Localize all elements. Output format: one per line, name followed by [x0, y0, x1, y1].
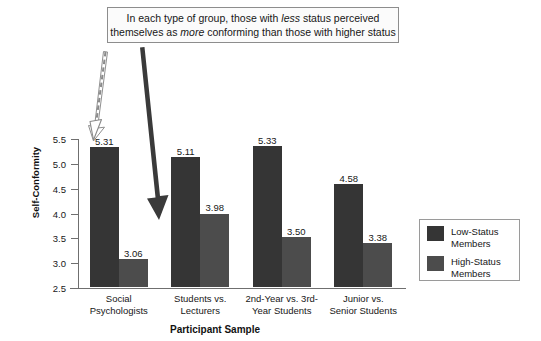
bar-high-status [200, 214, 229, 288]
y-axis-tick [71, 164, 78, 165]
x-axis-line [70, 288, 406, 289]
y-axis-title: Self-Conformity [30, 128, 41, 238]
x-axis-category-label-line: Junior vs. [315, 293, 413, 305]
legend-row: High-Status Members [427, 256, 519, 280]
annotation-line-2-emphasis: more [180, 26, 204, 38]
annotation-line-1-part-a: In each type of group, those with [127, 12, 282, 24]
legend-swatch [427, 226, 444, 241]
bar-low-status [90, 147, 119, 287]
bar-value-label: 5.31 [84, 136, 125, 147]
x-axis-category-label: Junior vs.Senior Students [315, 293, 413, 318]
y-axis-tick [71, 139, 78, 140]
y-axis-tick-label: 4.5 [42, 183, 66, 194]
y-axis-tick [71, 189, 78, 190]
legend-label: High-Status Members [451, 256, 501, 280]
bar-low-status [171, 157, 200, 287]
legend-row: Low-Status Members [427, 226, 519, 250]
bar-value-label: 3.38 [357, 232, 398, 243]
bar-value-label: 3.50 [276, 226, 317, 237]
annotation-line-1: In each type of group, those with less s… [127, 11, 380, 25]
y-axis-tick-label: 4.0 [42, 208, 66, 219]
annotation-line-2: themselves as more conforming than those… [110, 25, 395, 39]
y-axis-tick-label: 2.5 [42, 283, 66, 294]
y-axis-tick-label: 3.0 [42, 258, 66, 269]
y-axis-tick [71, 238, 78, 239]
annotation-line-2-part-b: conforming than those with higher status [204, 26, 395, 38]
bar-value-label: 3.98 [194, 202, 235, 213]
x-axis-title: Participant Sample [0, 324, 430, 335]
bar-value-label: 5.33 [247, 135, 288, 146]
annotation-line-1-part-b: status perceived [300, 12, 379, 24]
bar-value-label: 5.11 [165, 146, 206, 157]
legend-label: Low-Status Members [451, 226, 499, 250]
y-axis-tick [71, 288, 78, 289]
plot-area: 5.313.065.113.985.333.504.583.38 [78, 139, 404, 287]
annotation-line-2-part-a: themselves as [110, 26, 180, 38]
legend-swatch [427, 256, 444, 271]
annotation-callout-box: In each type of group, those with less s… [107, 7, 399, 43]
bar-high-status [119, 259, 148, 287]
y-axis-tick-label: 5.0 [42, 158, 66, 169]
y-axis-tick [71, 214, 78, 215]
bar-high-status [363, 243, 392, 287]
y-axis-tick-label: 3.5 [42, 233, 66, 244]
bar-value-label: 3.06 [113, 248, 154, 259]
bar-high-status [282, 237, 311, 287]
chart-legend: Low-Status MembersHigh-Status Members [419, 219, 520, 281]
y-axis-tick [71, 263, 78, 264]
x-axis-category-label-line: Senior Students [315, 305, 413, 317]
y-axis-tick-label: 5.5 [42, 134, 66, 145]
bar-low-status [253, 146, 282, 287]
annotation-line-1-emphasis: less [281, 12, 300, 24]
bar-value-label: 4.58 [328, 173, 369, 184]
